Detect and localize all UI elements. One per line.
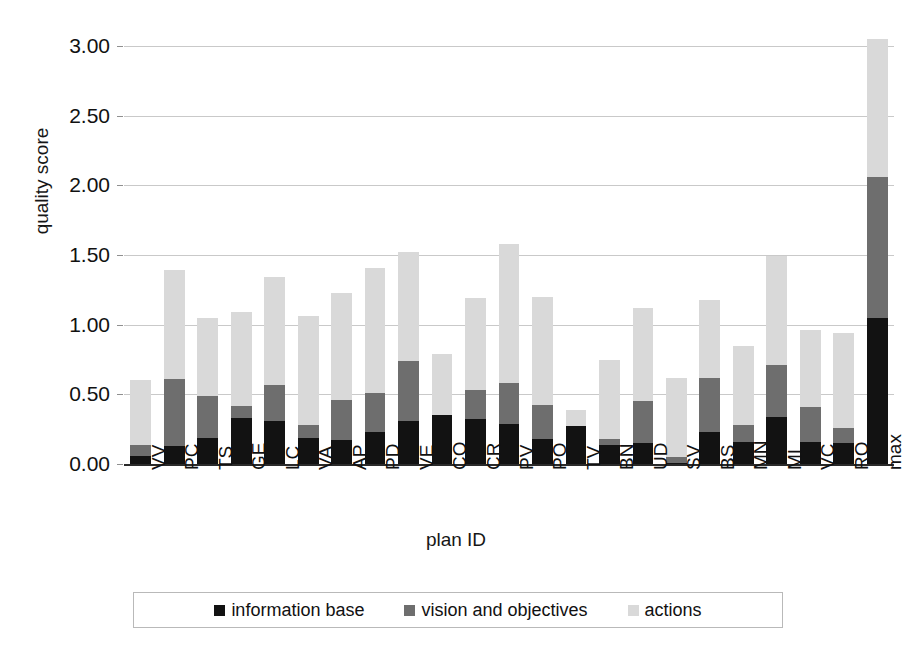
x-axis-tick-label-va: VA [315,446,337,470]
bar-segment-vision-and-objectives [398,361,419,421]
x-axis-tick-label-ge: GE [248,443,270,470]
x-axis-tick-label-bn: BN [616,444,638,470]
y-axis-tick-label: 2.50 [69,104,110,128]
bar-segment-actions [800,330,821,407]
y-axis-tick-label: 0.00 [69,452,110,476]
bar-segment-actions [499,244,520,383]
bar-segment-actions [599,360,620,439]
square-swatch-dark-gray [404,605,415,616]
x-axis-tick-label-ve: VE [416,445,438,470]
bar-segment-vision-and-objectives [733,425,754,442]
bar-segment-actions [532,297,553,406]
x-axis-tick-label-po: PO [549,443,571,470]
x-axis-line [124,464,894,466]
x-axis-tick-label-ap: AP [349,445,371,470]
bar-segment-vision-and-objectives [532,405,553,438]
bar-segment-vision-and-objectives [331,400,352,440]
y-axis-tick-label: 3.00 [69,34,110,58]
y-axis-tick-label: 1.50 [69,243,110,267]
bar-segment-vision-and-objectives [633,401,654,443]
x-axis-tick-label-pc: PC [181,444,203,470]
bar-pv [499,244,520,464]
bar-segment-actions [867,39,888,177]
x-axis-tick-labels: VVPCTSGELCVAAPPDVECOCRPVPOTVBNUDSVBSMNMI… [124,468,894,528]
chart-legend: information basevision and objectivesact… [133,592,783,628]
bar-segment-vision-and-objectives [465,390,486,419]
legend-item: vision and objectives [404,600,587,621]
bar-ud [633,308,654,464]
bar-segment-vision-and-objectives [298,425,319,438]
bar-lc [264,277,285,464]
bar-series-group [124,46,894,464]
y-axis-tick-mark [117,46,123,47]
bar-cr [465,298,486,464]
x-axis-tick-label-max: max [884,434,906,470]
bar-bs [699,300,720,464]
y-axis-tick-mark [117,255,123,256]
bar-segment-vision-and-objectives [197,396,218,438]
bar-segment-actions [833,333,854,428]
bar-segment-actions [298,316,319,425]
x-axis-tick-label-co: CO [449,442,471,471]
bar-segment-vision-and-objectives [365,393,386,432]
y-axis-tick-mark [117,394,123,395]
bar-segment-actions [365,268,386,393]
plot-area: 0.000.501.001.502.002.503.00 [124,46,894,464]
y-axis-tick-label: 0.50 [69,382,110,406]
x-axis-title: plan ID [0,529,912,551]
y-axis-tick-label: 2.00 [69,173,110,197]
legend-label: information base [231,600,364,621]
x-axis-tick-label-pd: PD [382,444,404,470]
bar-segment-actions [465,298,486,390]
square-swatch-black [214,605,225,616]
x-axis-tick-label-bs: BS [717,445,739,470]
bar-ap [331,293,352,464]
x-axis-tick-label-vv: VV [148,445,170,470]
bar-mi [766,256,787,464]
bar-segment-actions [633,308,654,401]
legend-item: actions [628,600,702,621]
bar-segment-actions [231,312,252,405]
x-axis-tick-label-ud: UD [650,443,672,470]
x-axis-tick-label-lc: LC [282,446,304,470]
bar-segment-actions [432,354,453,415]
bar-segment-actions [766,256,787,365]
x-axis-tick-label-sv: SV [683,445,705,470]
bar-segment-actions [566,410,587,427]
bar-segment-actions [398,252,419,361]
legend-label: vision and objectives [421,600,587,621]
bar-segment-actions [197,318,218,396]
bar-segment-vision-and-objectives [800,407,821,442]
x-axis-tick-label-ts: TS [215,446,237,470]
bar-segment-vision-and-objectives [867,177,888,318]
x-axis-tick-label-pv: PV [516,445,538,470]
bar-max [867,39,888,464]
bar-segment-vision-and-objectives [499,383,520,423]
bar-segment-actions [699,300,720,378]
y-axis-tick-mark [117,116,123,117]
x-axis-tick-label-mn: MN [750,440,772,470]
bar-segment-actions [130,380,151,444]
bar-pd [365,268,386,464]
bar-segment-vision-and-objectives [231,406,252,419]
bar-ts [197,318,218,464]
bar-segment-vision-and-objectives [264,385,285,421]
x-axis-tick-label-vc: VC [817,444,839,470]
x-axis-tick-label-tv: TV [583,446,605,470]
bar-ve [398,252,419,464]
y-axis-tick-mark [117,325,123,326]
bar-pc [164,270,185,464]
y-axis-title: quality score [31,81,53,281]
bar-va [298,316,319,464]
x-axis-tick-label-mi: MI [784,449,806,470]
bar-ge [231,312,252,464]
y-axis-tick-mark [117,185,123,186]
bar-segment-vision-and-objectives [164,379,185,446]
bar-segment-actions [264,277,285,384]
bar-segment-actions [733,346,754,425]
stacked-bar-chart: quality score 0.000.501.001.502.002.503.… [0,0,912,654]
bar-segment-vision-and-objectives [766,365,787,417]
y-axis-tick-label: 1.00 [69,313,110,337]
x-axis-tick-label-cr: CR [483,443,505,470]
legend-label: actions [645,600,702,621]
